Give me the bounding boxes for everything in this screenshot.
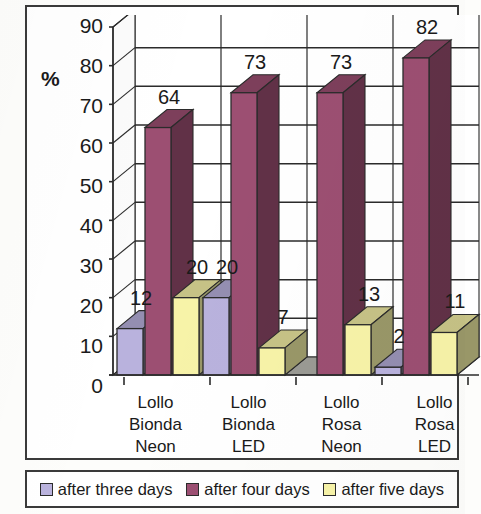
y-tick-label: 30: [59, 255, 103, 276]
bar-value-label: 73: [330, 51, 352, 73]
legend-item[interactable]: after four days: [186, 480, 309, 499]
legend-label: after three days: [58, 480, 173, 499]
bar-chart-svg: 12642020737731328211: [109, 15, 481, 387]
x-category-label-line: Neon: [295, 436, 388, 458]
legend-item[interactable]: after five days: [323, 480, 444, 499]
legend-label: after four days: [204, 480, 309, 499]
x-category-label-line: Lollo: [202, 392, 295, 414]
x-category-label-line: LED: [202, 436, 295, 458]
bar-value-label: 13: [358, 283, 380, 305]
bar-front-face: [231, 93, 257, 375]
y-tick-label: 0: [59, 375, 103, 396]
x-category-label: LolloRosaNeon: [295, 392, 388, 462]
bar-front-face: [117, 329, 143, 375]
bar-value-label: 20: [216, 256, 238, 278]
bar-front-face: [145, 128, 171, 375]
legend-swatch-icon: [323, 483, 336, 496]
x-category-label-line: Rosa: [388, 414, 481, 436]
bar-value-label: 12: [130, 287, 152, 309]
bar-front-face: [173, 298, 199, 375]
x-category-label: LolloBiondaLED: [202, 392, 295, 462]
y-tick-label: 20: [59, 295, 103, 316]
x-category-label-line: LED: [388, 436, 481, 458]
x-category-label-line: Lollo: [109, 392, 202, 414]
bar-front-face: [345, 325, 371, 375]
y-tick-label: 60: [59, 135, 103, 156]
bar-front-face: [203, 298, 229, 375]
bar-value-label: 82: [416, 16, 438, 38]
x-category-label-line: Neon: [109, 436, 202, 458]
bar-front-face: [431, 332, 457, 375]
bar-value-label: 2: [393, 325, 404, 347]
chart-legend: after three daysafter four daysafter fiv…: [25, 470, 459, 508]
bar-front-face: [375, 367, 401, 375]
bar: [231, 75, 279, 375]
bar-front-face: [317, 93, 343, 375]
y-tick-label: 40: [59, 215, 103, 236]
x-category-label-line: Bionda: [202, 414, 295, 436]
x-axis-category-labels: LolloBiondaNeonLolloBiondaLEDLolloRosaNe…: [109, 392, 481, 462]
bar-front-face: [259, 348, 285, 375]
x-category-label: LolloRosaLED: [388, 392, 481, 462]
bar-front-face: [403, 58, 429, 375]
legend-label: after five days: [341, 480, 444, 499]
legend-item[interactable]: after three days: [40, 480, 173, 499]
legend-swatch-icon: [186, 483, 199, 496]
bar-side-face: [257, 75, 279, 375]
bar-value-label: 7: [277, 306, 288, 328]
x-category-label-line: Bionda: [109, 414, 202, 436]
chart-frame: % 9080706050403020100 126420207377313282…: [25, 5, 459, 460]
y-tick-label: 80: [59, 55, 103, 76]
y-tick-label: 10: [59, 335, 103, 356]
x-category-label-line: Lollo: [295, 392, 388, 414]
legend-swatch-icon: [40, 483, 53, 496]
y-tick-label: 50: [59, 175, 103, 196]
bar-value-label: 73: [244, 51, 266, 73]
bar-value-label: 64: [158, 86, 180, 108]
y-axis-tick-labels: 9080706050403020100: [49, 7, 103, 387]
y-tick-label: 90: [59, 15, 103, 36]
bar-value-label: 20: [186, 256, 208, 278]
y-tick-label: 70: [59, 95, 103, 116]
plot-area: 12642020737731328211: [109, 15, 481, 387]
x-category-label: LolloBiondaNeon: [109, 392, 202, 462]
x-category-label-line: Lollo: [388, 392, 481, 414]
bar-value-label: 11: [445, 290, 466, 312]
x-category-label-line: Rosa: [295, 414, 388, 436]
